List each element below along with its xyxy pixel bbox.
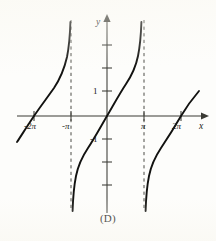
figure-caption: (D): [0, 212, 216, 224]
curve-branch-right: [146, 91, 199, 211]
x-axis-label: x: [198, 121, 204, 131]
x-axis-arrow-icon: [201, 112, 209, 119]
y-axis-label: y: [95, 17, 101, 27]
y-tick-label-neg1: -1: [90, 134, 98, 144]
tangent-graph-plot: y x -2π -π π 2π 1 -1: [0, 0, 216, 241]
y-tick-label-1: 1: [93, 86, 98, 96]
x-tick-label-2pi: 2π: [172, 121, 182, 131]
figure-container: y x -2π -π π 2π 1 -1 (D): [0, 0, 216, 241]
x-tick-label-neg-2pi: -2π: [24, 121, 36, 131]
x-tick-label-pi: π: [141, 121, 146, 131]
x-tick-label-neg-pi: -π: [62, 121, 70, 131]
y-axis-arrow-icon: [103, 14, 110, 22]
